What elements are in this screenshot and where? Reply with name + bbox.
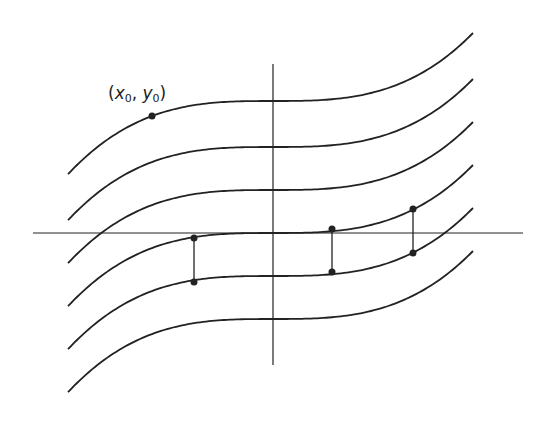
- segment-bottom-point-1: [191, 279, 198, 286]
- initial-point-x0-y0: [149, 113, 156, 120]
- diagram-canvas: (x0, y0): [0, 0, 550, 421]
- integral-curve-3: [68, 122, 473, 263]
- segment-bottom-point-2: [329, 269, 336, 276]
- label-sub-x: 0: [125, 92, 132, 105]
- label-x: x: [115, 83, 125, 103]
- segment-bottom-point-3: [410, 250, 417, 257]
- segment-top-point-1: [191, 235, 198, 242]
- curve-family-figure: [0, 0, 550, 421]
- label-sub-y: 0: [153, 92, 160, 105]
- vertical-segments: [194, 209, 413, 282]
- segment-top-point-3: [410, 206, 417, 213]
- integral-curve-4: [68, 165, 473, 306]
- label-y: y: [143, 83, 153, 103]
- segment-top-point-2: [329, 226, 336, 233]
- integral-curve-5: [68, 208, 473, 349]
- point-label-x0-y0: (x0, y0): [108, 83, 166, 105]
- integral-curve-6: [68, 251, 473, 392]
